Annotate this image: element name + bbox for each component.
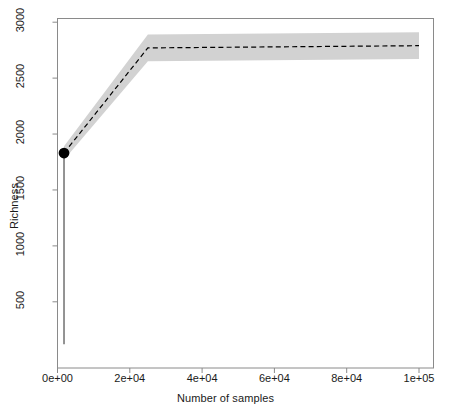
x-tick-label: 2e+04 (100, 372, 160, 384)
x-tick-label: 6e+04 (244, 372, 304, 384)
x-tick-label: 8e+04 (317, 372, 377, 384)
y-tick-label: 3000 (14, 0, 26, 50)
chart-canvas (0, 0, 451, 420)
x-tick-label: 4e+04 (172, 372, 232, 384)
y-axis-title: Richness (8, 156, 20, 256)
plot-frame (58, 19, 434, 369)
y-tick-label: 500 (14, 270, 26, 330)
observed-richness-point (59, 148, 70, 159)
y-tick-label: 2000 (14, 102, 26, 162)
confidence-band (64, 32, 419, 159)
richness-estimate-line (64, 46, 419, 153)
x-tick-label: 0e+00 (28, 372, 88, 384)
rarefaction-chart: 0e+002e+044e+046e+048e+041e+05 500100015… (0, 0, 451, 420)
y-axis-ticks (53, 22, 58, 302)
x-tick-label: 1e+05 (389, 372, 449, 384)
x-axis-title: Number of samples (0, 392, 451, 404)
y-tick-label: 2500 (14, 46, 26, 106)
